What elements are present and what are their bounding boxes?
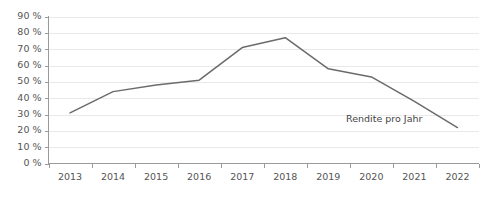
x-tick-label-2021: 2021 [402, 171, 426, 182]
y-tick-labels: 0 %10 %20 %30 %40 %50 %60 %70 %80 %90 % [17, 10, 41, 168]
x-tick-label-2014: 2014 [101, 171, 125, 182]
x-tick-label-2016: 2016 [187, 171, 211, 182]
y-tick-label-10: 10 % [17, 141, 41, 152]
line-chart: 0 %10 %20 %30 %40 %50 %60 %70 %80 %90 % … [0, 0, 491, 197]
x-tick-label-2022: 2022 [445, 171, 469, 182]
x-tick-label-2013: 2013 [58, 171, 82, 182]
x-tick-label-2018: 2018 [273, 171, 297, 182]
gridlines [49, 18, 480, 148]
y-tick-label-90: 90 % [17, 10, 41, 21]
x-tick-label-2019: 2019 [316, 171, 340, 182]
x-tick-label-2017: 2017 [230, 171, 254, 182]
y-tick-label-40: 40 % [17, 92, 41, 103]
x-tick-label-2020: 2020 [359, 171, 383, 182]
series-label-0: Rendite pro Jahr [346, 113, 423, 124]
y-tick-marks [45, 18, 49, 165]
y-tick-label-60: 60 % [17, 59, 41, 70]
y-tick-label-20: 20 % [17, 124, 41, 135]
x-tick-marks [50, 164, 480, 168]
x-tick-label-2015: 2015 [144, 171, 168, 182]
y-tick-label-30: 30 % [17, 108, 41, 119]
chart-container: 0 %10 %20 %30 %40 %50 %60 %70 %80 %90 % … [0, 0, 491, 197]
y-tick-label-80: 80 % [17, 26, 41, 37]
y-tick-label-0: 0 % [23, 157, 41, 168]
y-tick-label-70: 70 % [17, 43, 41, 54]
series-annotations: Rendite pro Jahr [346, 113, 423, 124]
y-tick-label-50: 50 % [17, 75, 41, 86]
x-tick-labels: 2013201420152016201720182019202020212022 [58, 171, 470, 182]
